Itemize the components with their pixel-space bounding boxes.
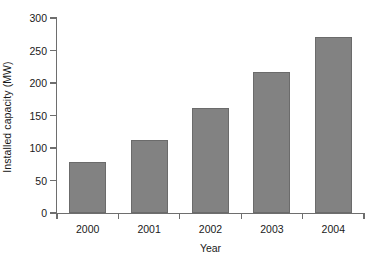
y-axis-tick-label: 300 (7, 13, 47, 23)
x-axis-category-label: 2004 (302, 223, 364, 235)
y-axis-tick-label: 250 (7, 46, 47, 56)
x-axis-tick (302, 214, 303, 219)
y-axis-tick-label: 150 (7, 111, 47, 121)
y-axis-tick-label: 200 (7, 78, 47, 88)
y-axis-tick (50, 147, 56, 148)
x-axis-tick (118, 214, 119, 219)
y-axis-tick (50, 50, 56, 51)
bar (315, 37, 352, 213)
bar-chart-figure: Installed capacity (MW) 0501001502002503… (0, 0, 380, 268)
x-axis-tick (363, 214, 364, 219)
bar (69, 162, 106, 213)
x-axis-line (56, 213, 365, 214)
y-axis-tick-label: 100 (7, 143, 47, 153)
y-axis-tick (50, 115, 56, 116)
y-axis-tick (50, 17, 56, 18)
y-axis-tick (50, 180, 56, 181)
x-axis-title: Year (57, 242, 364, 254)
bar (131, 140, 168, 213)
y-axis-tick (50, 212, 56, 213)
bar (253, 72, 290, 213)
plot-area (57, 18, 364, 213)
bar (192, 108, 229, 213)
y-axis-tick-label: 0 (7, 208, 47, 218)
x-axis-category-label: 2000 (57, 223, 119, 235)
y-axis-tick (50, 82, 56, 83)
x-axis-tick (241, 214, 242, 219)
x-axis-category-label: 2001 (118, 223, 180, 235)
x-axis-category-label: 2003 (241, 223, 303, 235)
x-axis-tick (179, 214, 180, 219)
x-axis-tick (56, 214, 57, 219)
x-axis-category-label: 2002 (180, 223, 242, 235)
y-axis-tick-label: 50 (7, 176, 47, 186)
